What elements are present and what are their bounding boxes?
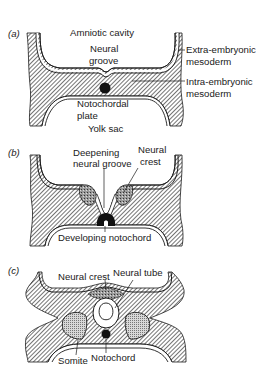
embryo-diagram <box>0 0 273 371</box>
label-neural-groove-line1: Neural <box>90 43 118 54</box>
label-neural-crest-b-line2: crest <box>140 156 161 167</box>
label-intra-embryonic-line1: Intra-embryonic <box>186 76 253 87</box>
panel-c-notochord <box>102 330 111 339</box>
panel-c-drawing <box>25 272 186 362</box>
label-neural-tube: Neural tube <box>113 267 163 278</box>
panel-a-notochordal-plate <box>100 83 111 94</box>
label-extra-embryonic-line1: Extra-embryonic <box>186 44 256 55</box>
label-notochordal-plate-line1: Notochordal <box>77 98 129 109</box>
label-intra-embryonic-line2: mesoderm <box>186 88 231 99</box>
label-developing-notochord: Developing notochord <box>58 232 151 243</box>
label-somite: Somite <box>58 355 88 366</box>
panel-a-tag: (a) <box>8 28 20 39</box>
label-notochord: Notochord <box>91 352 135 363</box>
label-neural-groove-line2: groove <box>89 55 118 66</box>
label-neural-crest-b-line1: Neural <box>138 144 166 155</box>
label-yolk-sac: Yolk sac <box>88 123 123 134</box>
label-deepening-line2: neural groove <box>73 158 132 169</box>
label-deepening-line1: Deepening <box>73 147 119 158</box>
label-neural-crest-c: Neural crest <box>58 271 110 282</box>
panel-b-tag: (b) <box>8 147 20 158</box>
label-amniotic-cavity: Amniotic cavity <box>70 27 134 38</box>
label-notochordal-plate-line2: plate <box>77 110 98 121</box>
panel-c-tag: (c) <box>8 265 19 276</box>
label-extra-embryonic-line2: mesoderm <box>186 56 231 67</box>
